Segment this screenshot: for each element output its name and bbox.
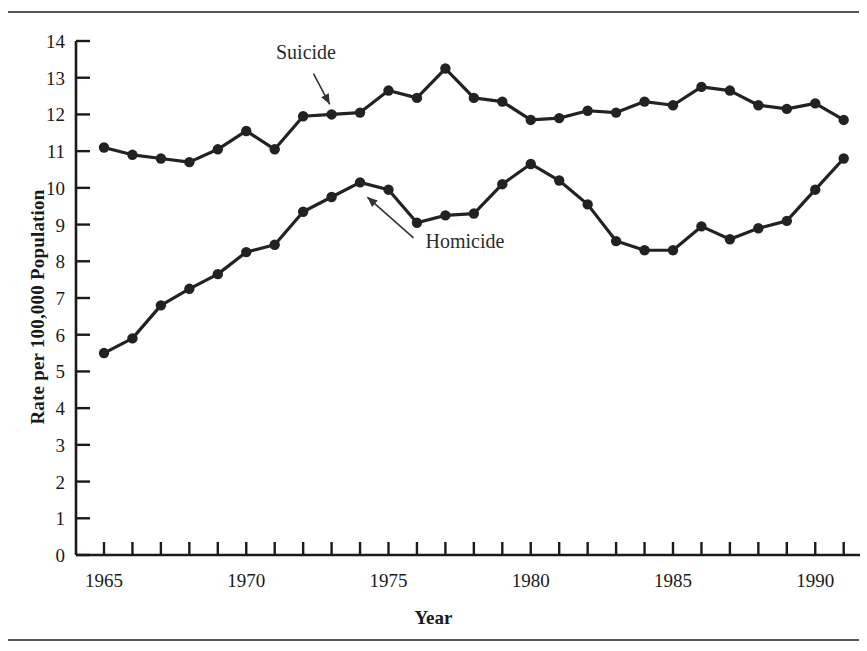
data-point-suicide — [810, 98, 820, 108]
data-point-homicide — [611, 236, 621, 246]
y-tick-label: 4 — [56, 398, 66, 419]
data-series-group — [99, 63, 849, 358]
data-point-suicide — [839, 115, 849, 125]
data-point-homicide — [725, 234, 735, 244]
x-axis: 196519701975198019851990 — [76, 542, 860, 591]
y-tick-label: 1 — [56, 508, 66, 529]
data-point-homicide — [753, 223, 763, 233]
data-point-suicide — [639, 96, 649, 106]
line-chart-plot: 01234567891011121314 1965197019751980198… — [0, 0, 867, 651]
data-point-homicide — [582, 199, 592, 209]
y-tick-label: 0 — [56, 545, 66, 566]
y-tick-label: 14 — [46, 31, 66, 52]
data-point-suicide — [611, 107, 621, 117]
data-point-suicide — [270, 144, 280, 154]
series-label-suicide: Suicide — [276, 41, 336, 63]
data-point-suicide — [99, 142, 109, 152]
data-point-homicide — [383, 184, 393, 194]
data-point-homicide — [156, 300, 166, 310]
data-point-homicide — [497, 179, 507, 189]
data-point-suicide — [326, 109, 336, 119]
data-point-suicide — [127, 150, 137, 160]
data-point-suicide — [241, 126, 251, 136]
y-tick-label: 8 — [56, 251, 66, 272]
y-tick-label: 5 — [56, 361, 66, 382]
data-point-suicide — [184, 157, 194, 167]
y-tick-label: 2 — [56, 472, 66, 493]
y-tick-label: 11 — [47, 141, 65, 162]
data-point-suicide — [668, 100, 678, 110]
data-point-homicide — [412, 218, 422, 228]
data-point-suicide — [440, 63, 450, 73]
data-point-suicide — [469, 93, 479, 103]
x-tick-label: 1965 — [85, 570, 123, 591]
data-point-suicide — [782, 104, 792, 114]
data-point-homicide — [241, 247, 251, 257]
data-point-suicide — [582, 106, 592, 116]
y-tick-label: 6 — [56, 325, 66, 346]
data-point-suicide — [696, 82, 706, 92]
data-point-suicide — [753, 100, 763, 110]
data-point-homicide — [696, 221, 706, 231]
y-tick-label: 3 — [56, 435, 66, 456]
data-point-homicide — [99, 348, 109, 358]
data-point-homicide — [355, 177, 365, 187]
data-point-suicide — [497, 96, 507, 106]
y-tick-label: 13 — [46, 68, 65, 89]
chart-figure: Rate per 100,000 Population Year 0123456… — [0, 0, 867, 651]
series-line-homicide — [104, 158, 844, 353]
data-point-homicide — [440, 210, 450, 220]
x-tick-label: 1985 — [654, 570, 692, 591]
data-point-homicide — [639, 245, 649, 255]
y-tick-label: 7 — [56, 288, 66, 309]
y-tick-label: 12 — [46, 104, 65, 125]
data-point-suicide — [725, 85, 735, 95]
data-point-suicide — [298, 111, 308, 121]
data-point-homicide — [298, 207, 308, 217]
data-point-homicide — [469, 208, 479, 218]
data-point-homicide — [270, 240, 280, 250]
x-tick-label: 1990 — [796, 570, 834, 591]
data-point-homicide — [810, 184, 820, 194]
data-point-homicide — [839, 153, 849, 163]
data-point-suicide — [383, 85, 393, 95]
data-point-suicide — [526, 115, 536, 125]
data-point-suicide — [213, 144, 223, 154]
data-point-suicide — [412, 93, 422, 103]
data-point-suicide — [355, 107, 365, 117]
data-point-homicide — [184, 284, 194, 294]
y-tick-label: 9 — [56, 215, 66, 236]
data-point-homicide — [213, 269, 223, 279]
x-tick-label: 1980 — [512, 570, 550, 591]
x-tick-label: 1975 — [370, 570, 408, 591]
data-point-homicide — [668, 245, 678, 255]
series-annotations: SuicideHomicide — [276, 41, 504, 252]
series-label-homicide: Homicide — [425, 230, 504, 252]
data-point-suicide — [156, 153, 166, 163]
data-point-homicide — [526, 159, 536, 169]
data-point-homicide — [127, 333, 137, 343]
y-axis: 01234567891011121314 — [46, 31, 90, 566]
data-point-homicide — [554, 175, 564, 185]
data-point-homicide — [782, 216, 792, 226]
data-point-homicide — [326, 192, 336, 202]
data-point-suicide — [554, 113, 564, 123]
x-tick-label: 1970 — [227, 570, 265, 591]
y-tick-label: 10 — [46, 178, 65, 199]
